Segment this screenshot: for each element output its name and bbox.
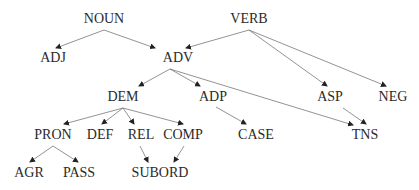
node-adj: ADJ	[40, 51, 66, 65]
edge-pron-to-pass	[53, 146, 78, 162]
edge-adp-to-case	[216, 107, 246, 124]
node-adp: ADP	[199, 90, 227, 104]
edge-asp-to-tns	[343, 108, 366, 124]
edge-noun-to-adj	[56, 30, 104, 48]
node-case: CASE	[238, 128, 274, 142]
edge-dem-to-pron	[64, 108, 123, 124]
dependency-tree-diagram: NOUNVERBADJADVDEMADPASPNEGPRONDEFRELCOMP…	[0, 0, 419, 190]
edge-verb-to-neg	[249, 30, 386, 86]
edge-comp-to-subord	[174, 146, 184, 162]
node-rel: REL	[128, 128, 154, 142]
node-def: DEF	[87, 128, 113, 142]
edge-dem-to-def	[102, 108, 123, 124]
edge-verb-to-adv	[186, 30, 249, 48]
node-agr: AGR	[14, 166, 44, 180]
node-asp: ASP	[317, 90, 343, 104]
node-comp: COMP	[163, 128, 203, 142]
edge-adv-to-adp	[170, 69, 200, 86]
node-tns: TNS	[352, 128, 378, 142]
node-adv: ADV	[163, 51, 193, 65]
node-noun: NOUN	[84, 12, 124, 26]
node-pass: PASS	[63, 166, 95, 180]
edge-pron-to-agr	[30, 146, 53, 162]
edge-noun-to-adv	[104, 30, 155, 48]
node-neg: NEG	[379, 90, 408, 104]
edge-verb-to-asp	[249, 30, 327, 86]
edge-adv-to-dem	[139, 69, 170, 86]
node-subord: SUBORD	[132, 166, 189, 180]
node-pron: PRON	[34, 128, 71, 142]
node-verb: VERB	[230, 12, 267, 26]
node-dem: DEM	[107, 90, 138, 104]
edge-rel-to-subord	[140, 146, 148, 162]
